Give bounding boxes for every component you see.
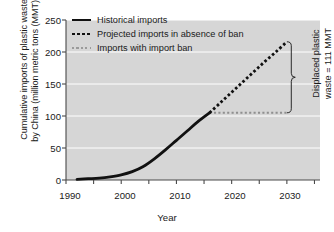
legend-item-projected-imports: Projected imports in absence of ban — [72, 29, 244, 39]
x-axis-ticks — [66, 180, 314, 184]
y-axis-ticks — [62, 20, 66, 180]
x-tick-label: 2020 — [215, 190, 255, 201]
legend-label: Historical imports — [97, 15, 167, 25]
legend-label: Projected imports in absence of ban — [97, 29, 244, 39]
x-tick-label: 1990 — [50, 190, 90, 201]
legend-swatch-dotted-light-line-icon — [72, 43, 91, 53]
legend-item-imports-with-ban: Imports with import ban — [72, 43, 192, 53]
legend-label: Imports with import ban — [97, 43, 192, 53]
x-tick-label: 2030 — [270, 190, 310, 201]
chart-figure: Cumulative imports of plastic waste by C… — [0, 0, 334, 232]
legend-item-historical-imports: Historical imports — [72, 15, 167, 25]
legend-swatch-dotted-dark-line-icon — [72, 29, 91, 39]
legend-swatch-solid-line-icon — [72, 15, 91, 25]
displaced-waste-annotation: Displaced plastic waste = 111 MMT — [311, 4, 334, 124]
x-tick-label: 2010 — [160, 190, 200, 201]
x-tick-label: 2000 — [105, 190, 145, 201]
x-axis-title: Year — [0, 212, 334, 223]
